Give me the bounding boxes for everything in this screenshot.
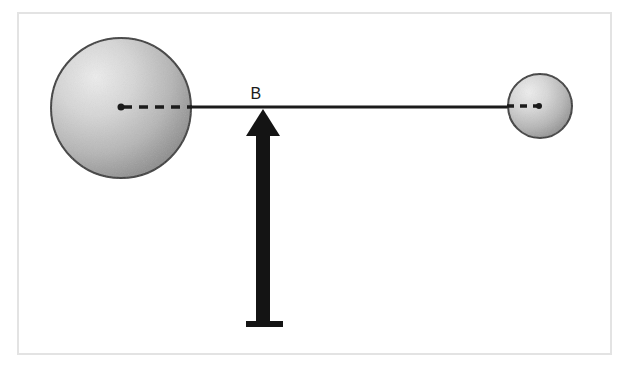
diagram-canvas: B	[0, 0, 632, 374]
arrow-base-bar	[246, 321, 283, 327]
large-sphere	[51, 38, 192, 178]
figure-container: B	[0, 0, 632, 374]
small-sphere-center-dot	[536, 103, 542, 109]
large-sphere-center-dot	[118, 104, 125, 111]
small-sphere	[507, 74, 572, 138]
label-b: B	[251, 85, 262, 102]
arrow-shaft	[256, 132, 270, 322]
